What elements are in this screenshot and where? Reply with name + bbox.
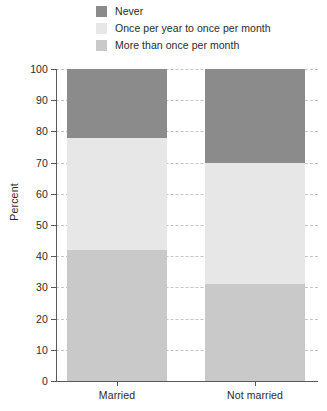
plot-area bbox=[56, 69, 318, 381]
bar-segment[interactable] bbox=[67, 250, 167, 381]
y-axis-tick-label: 100 bbox=[22, 63, 48, 75]
bar-married[interactable] bbox=[67, 69, 167, 381]
bar-segment[interactable] bbox=[205, 69, 305, 163]
x-axis-line bbox=[56, 381, 318, 382]
y-axis-tick-label: 0 bbox=[22, 375, 48, 387]
x-axis-tick-mark bbox=[117, 381, 118, 386]
bar-not-married[interactable] bbox=[205, 69, 305, 381]
y-axis-tick-label: 60 bbox=[22, 188, 48, 200]
y-axis-tick-label: 10 bbox=[22, 344, 48, 356]
x-axis-tick-label: Not married bbox=[227, 389, 283, 401]
y-axis-tick-label: 20 bbox=[22, 313, 48, 325]
x-axis-tick-mark bbox=[255, 381, 256, 386]
y-axis-tick-label: 50 bbox=[22, 219, 48, 231]
y-axis-tick-label: 30 bbox=[22, 281, 48, 293]
bar-segment[interactable] bbox=[67, 138, 167, 250]
y-axis-line bbox=[56, 69, 57, 381]
y-axis-tick-label: 40 bbox=[22, 250, 48, 262]
bar-segment[interactable] bbox=[205, 284, 305, 381]
y-axis-tick-label: 80 bbox=[22, 125, 48, 137]
bar-segment[interactable] bbox=[67, 69, 167, 138]
y-axis-tick-label: 90 bbox=[22, 94, 48, 106]
stacked-bar-chart: NeverOnce per year to once per monthMore… bbox=[0, 0, 327, 411]
x-axis-tick-label: Married bbox=[99, 389, 135, 401]
bar-segment[interactable] bbox=[205, 163, 305, 285]
y-axis-tick-label: 70 bbox=[22, 157, 48, 169]
